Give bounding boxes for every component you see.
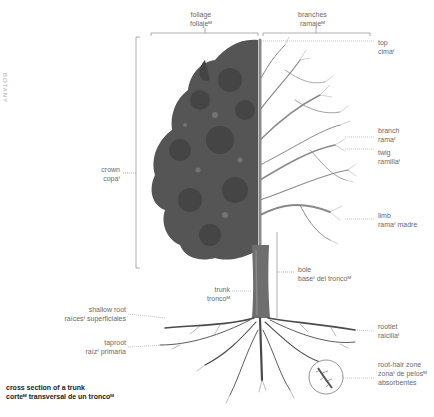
label-root-hair-zone-es2: absorbentes [378, 378, 427, 387]
branches-half [260, 37, 356, 250]
label-limb-en: limb [378, 211, 417, 220]
foliage-half [152, 40, 258, 260]
label-shallow-root: shallow root raícesᶠ superficiales [64, 305, 126, 323]
label-rootlet: rootlet raicillaᶠ [378, 322, 399, 340]
label-foliage-en: foliage [190, 10, 212, 19]
label-bole-en: bole [298, 265, 351, 274]
label-crown: crown copaᶠ [101, 165, 120, 183]
label-root-hair-zone-en: root-hair zone [378, 360, 427, 369]
label-root-hair-zone-es1: zonaᶠ de pelosᴹ [378, 369, 427, 378]
label-rootlet-en: rootlet [378, 322, 399, 331]
label-rootlet-es: raicillaᶠ [378, 331, 399, 340]
bole-bracket [277, 232, 295, 318]
label-branch: branch ramaᶠ [378, 126, 399, 144]
label-top-es: cimaᶠ [378, 47, 394, 56]
label-trunk-es: troncoᴹ [207, 294, 230, 303]
label-shallow-root-en: shallow root [64, 305, 126, 314]
label-trunk: trunk troncoᴹ [207, 285, 230, 303]
label-crown-en: crown [101, 165, 120, 174]
label-branch-es: ramaᶠ [378, 135, 399, 144]
cross-section-title-en: cross section of a trunk [6, 383, 114, 392]
label-root-hair-zone: root-hair zone zonaᶠ de pelosᴹ absorbent… [378, 360, 427, 387]
label-crown-es: copaᶠ [101, 174, 120, 183]
label-foliage: foliage follajeᴹ [190, 10, 212, 28]
label-twig-en: twig [378, 148, 400, 157]
label-branches-en: branches [298, 10, 327, 19]
label-taproot: taproot raízᶠ primaria [86, 338, 127, 356]
label-trunk-en: trunk [207, 285, 230, 294]
label-bole: bole baseᶠ del troncoᴹ [298, 265, 351, 283]
crown-bracket [122, 37, 140, 268]
label-limb-es: ramaᶠ madre [378, 220, 417, 229]
root-hair-detail [309, 360, 343, 394]
trunk [252, 245, 270, 318]
label-twig: twig ramillaᶠ [378, 148, 400, 166]
label-limb: limb ramaᶠ madre [378, 211, 417, 229]
label-shallow-root-es: raícesᶠ superficiales [64, 314, 126, 323]
label-top-en: top [378, 38, 394, 47]
label-foliage-es: follajeᴹ [190, 19, 212, 28]
top-brackets [151, 28, 370, 36]
label-taproot-es: raízᶠ primaria [86, 347, 127, 356]
label-top: top cimaᶠ [378, 38, 394, 56]
label-branch-en: branch [378, 126, 399, 135]
label-branches-es: ramajeᴹ [298, 19, 327, 28]
label-taproot-en: taproot [86, 338, 127, 347]
cross-section-title-es: corteᴹ transversal de un troncoᴹ [6, 392, 114, 401]
label-bole-es: baseᶠ del troncoᴹ [298, 274, 351, 283]
label-branches: branches ramajeᴹ [298, 10, 327, 28]
tree-illustration [0, 0, 434, 417]
label-twig-es: ramillaᶠ [378, 157, 400, 166]
cross-section-heading: cross section of a trunk corteᴹ transver… [6, 383, 114, 401]
